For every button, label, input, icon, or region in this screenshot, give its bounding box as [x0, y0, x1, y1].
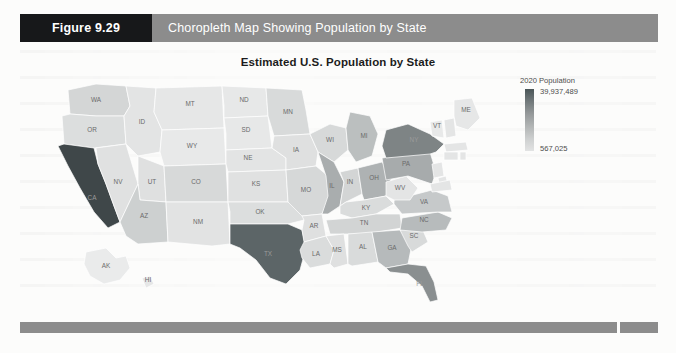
- map-region-label-vt: VT: [433, 122, 441, 129]
- map-region-label-ms: MS: [332, 246, 342, 253]
- map-region-label-wv: WV: [395, 184, 406, 191]
- map-region-label-hi: HI: [145, 276, 152, 283]
- map-region-label-me: ME: [461, 106, 471, 113]
- map-region-label-al: AL: [359, 243, 367, 250]
- legend-max-label: 39,937,489: [540, 87, 578, 96]
- map-region-label-co: CO: [191, 178, 201, 185]
- map-region-label-id: ID: [139, 118, 146, 125]
- map-region-label-tx: TX: [264, 250, 273, 257]
- figure-header: Figure 9.29 Choropleth Map Showing Popul…: [20, 14, 658, 42]
- map-region-label-ca: CA: [88, 194, 98, 201]
- map-region-label-ky: KY: [362, 204, 371, 211]
- map-region-label-oh: OH: [369, 174, 379, 181]
- map-region-label-nc: NC: [419, 216, 429, 223]
- map-region-label-pa: PA: [402, 160, 411, 167]
- bottom-rule-bar: [20, 322, 658, 333]
- us-map-svg: WAORCANVIDMTWYUTAZCONMNDSDNEKSOKTXMNIAMO…: [34, 72, 534, 302]
- map-region-label-or: OR: [87, 126, 97, 133]
- map-region-label-mi: MI: [360, 132, 367, 139]
- map-region-label-az: AZ: [140, 212, 148, 219]
- map-region-label-ga: GA: [387, 244, 397, 251]
- map-region-label-wi: WI: [326, 136, 334, 143]
- map-region-me[interactable]: [454, 98, 480, 130]
- map-region-label-il: IL: [329, 182, 335, 189]
- map-region-label-sd: SD: [242, 126, 251, 133]
- map-region-label-sc: SC: [410, 232, 419, 239]
- choropleth-map: WAORCANVIDMTWYUTAZCONMNDSDNEKSOKTXMNIAMO…: [34, 72, 534, 302]
- map-region-nj[interactable]: [432, 162, 444, 178]
- map-region-md[interactable]: [430, 180, 452, 192]
- figure-number-badge: Figure 9.29: [20, 14, 152, 42]
- map-region-label-mt: MT: [185, 100, 194, 107]
- map-region-label-mn: MN: [283, 108, 293, 115]
- map-region-label-wa: WA: [91, 96, 102, 103]
- map-region-nh[interactable]: [444, 118, 456, 138]
- map-region-label-nv: NV: [114, 178, 124, 185]
- map-region-ma[interactable]: [444, 142, 468, 152]
- map-region-label-ks: KS: [252, 180, 261, 187]
- map-region-label-ak: AK: [102, 262, 111, 269]
- map-legend: 2020 Population 39,937,489 567,025: [516, 76, 636, 164]
- map-region-label-ut: UT: [148, 178, 157, 185]
- bottom-rule-notch: [617, 322, 620, 333]
- map-region-label-ia: IA: [293, 146, 300, 153]
- figure-page: Figure 9.29 Choropleth Map Showing Popul…: [0, 0, 676, 353]
- map-region-label-va: VA: [420, 198, 429, 205]
- map-region-label-la: LA: [312, 250, 321, 257]
- map-region-label-wy: WY: [187, 142, 198, 149]
- map-region-label-ok: OK: [255, 208, 265, 215]
- chart-title: Estimated U.S. Population by State: [0, 56, 676, 68]
- map-region-label-ar: AR: [310, 222, 319, 229]
- legend-title: 2020 Population: [520, 76, 575, 85]
- map-region-ct[interactable]: [444, 152, 458, 160]
- legend-min-label: 567,025: [540, 144, 567, 153]
- map-region-ri[interactable]: [460, 152, 466, 160]
- map-region-label-nm: NM: [193, 218, 203, 225]
- figure-caption: Choropleth Map Showing Population by Sta…: [152, 14, 658, 42]
- map-region-sd[interactable]: [224, 116, 272, 150]
- map-region-label-fl: FL: [416, 280, 424, 287]
- map-region-label-mo: MO: [301, 186, 311, 193]
- map-region-mt[interactable]: [154, 86, 224, 130]
- map-region-label-in: IN: [347, 178, 354, 185]
- map-region-label-nd: ND: [239, 96, 249, 103]
- map-region-label-ny: NY: [410, 136, 420, 143]
- map-region-label-ne: NE: [244, 154, 253, 161]
- legend-colorbar: [525, 89, 534, 151]
- map-region-fl[interactable]: [386, 264, 438, 302]
- map-region-label-tn: TN: [360, 219, 369, 226]
